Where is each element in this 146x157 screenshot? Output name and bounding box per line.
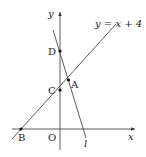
line-l [53, 30, 86, 138]
x-axis-label: x [128, 131, 134, 142]
y-axis-label: y [47, 8, 54, 19]
origin-label: O [48, 132, 56, 143]
coordinate-diagram: y x O B C D A y = x + 4 l [0, 0, 146, 157]
point-d [58, 49, 61, 52]
point-d-label: D [48, 46, 56, 57]
point-a-label: A [70, 79, 79, 90]
point-c-label: C [48, 85, 56, 96]
line-y-eq-x-plus-4 [12, 24, 116, 139]
line-l-label: l [84, 138, 87, 149]
point-b [19, 127, 22, 130]
point-a [67, 78, 70, 81]
line-y-eq-x-plus-4-label: y = x + 4 [94, 18, 142, 29]
point-b-label: B [18, 132, 25, 143]
point-c [58, 88, 61, 91]
